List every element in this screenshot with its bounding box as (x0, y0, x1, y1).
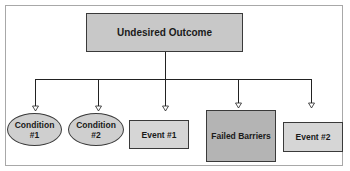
event-1-node: Event #1 (129, 120, 189, 149)
condition-2-label-line2: #2 (91, 130, 100, 140)
event-2-node: Event #2 (283, 122, 343, 152)
condition-2-label-line1: Condition (76, 120, 116, 130)
event-1-label: Event #1 (142, 130, 177, 140)
event-2-label: Event #2 (296, 132, 331, 142)
failed-barriers-label: Failed Barriers (211, 131, 271, 141)
arrowhead-icon (309, 103, 315, 108)
undesired-outcome-node: Undesired Outcome (86, 13, 243, 52)
condition-1-label-line1: Condition (15, 120, 55, 130)
condition-2-node: Condition #2 (68, 113, 124, 146)
failed-barriers-node: Failed Barriers (206, 110, 276, 162)
arrowhead-icon (236, 103, 242, 108)
condition-1-label-line2: #1 (30, 130, 39, 140)
condition-1-node: Condition #1 (7, 113, 62, 146)
undesired-outcome-label: Undesired Outcome (117, 27, 212, 38)
arrowhead-icon (96, 106, 102, 111)
arrowhead-icon (163, 106, 169, 111)
arrowhead-icon (33, 106, 39, 111)
